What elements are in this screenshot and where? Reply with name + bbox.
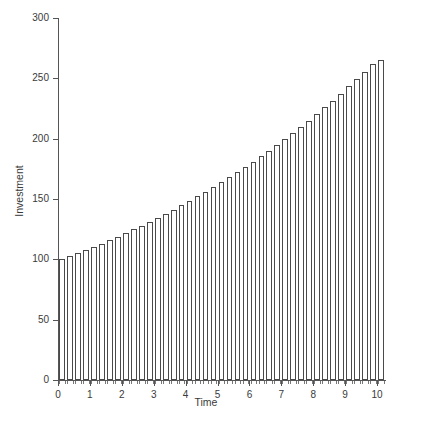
x-axis-minor-tick — [97, 381, 98, 384]
x-axis-minor-tick — [224, 381, 225, 384]
bar — [67, 256, 73, 380]
x-axis-minor-tick — [280, 381, 281, 384]
x-axis-minor-tick — [384, 381, 385, 384]
bar — [306, 121, 312, 380]
x-axis-minor-tick — [139, 381, 140, 384]
x-axis-minor-tick — [200, 381, 201, 384]
bar — [155, 218, 161, 380]
x-axis-minor-tick — [360, 381, 361, 384]
x-axis-minor-tick — [105, 381, 106, 384]
x-axis-minor-tick — [219, 381, 220, 384]
y-axis-title: Investment — [11, 0, 27, 425]
bar — [115, 237, 121, 380]
bar — [59, 259, 65, 380]
x-axis-minor-tick — [161, 381, 162, 384]
x-axis-minor-tick — [129, 381, 130, 384]
bar — [227, 177, 233, 380]
bar — [171, 210, 177, 381]
x-axis-minor-tick — [208, 381, 209, 384]
bar — [370, 64, 376, 380]
y-axis-tick-label: 300 — [32, 11, 49, 24]
x-axis-minor-tick — [290, 381, 291, 384]
x-axis-minor-tick — [123, 381, 124, 384]
x-axis-minor-tick — [113, 381, 114, 384]
x-axis-minor-tick — [91, 381, 92, 384]
x-axis-minor-tick — [227, 381, 228, 384]
bar — [99, 244, 105, 380]
y-axis-tick-mark — [53, 199, 58, 200]
x-axis-minor-tick — [169, 381, 170, 384]
x-axis-minor-tick — [298, 381, 299, 384]
x-axis-minor-tick — [256, 381, 257, 384]
x-axis-minor-tick — [211, 381, 212, 384]
x-axis-minor-tick — [89, 381, 90, 384]
x-axis-minor-tick — [362, 381, 363, 384]
y-axis-tick-mark — [53, 320, 58, 321]
x-axis-minor-tick — [107, 381, 108, 384]
x-axis-minor-tick — [376, 381, 377, 384]
x-axis-minor-tick — [352, 381, 353, 384]
x-axis-minor-tick — [81, 381, 82, 384]
bar — [235, 172, 241, 380]
x-axis-minor-tick — [131, 381, 132, 384]
bar — [338, 94, 344, 380]
x-axis-minor-tick — [192, 381, 193, 384]
x-axis-minor-tick — [312, 381, 313, 384]
x-axis-minor-tick — [259, 381, 260, 384]
bar — [211, 187, 217, 380]
x-axis-minor-tick — [184, 381, 185, 384]
plot-area: 050100150200250300 012345678910 — [58, 18, 385, 380]
bar — [266, 151, 272, 380]
x-axis-minor-tick — [145, 381, 146, 384]
x-axis-minor-tick — [59, 381, 60, 384]
x-axis-minor-tick — [370, 381, 371, 384]
bar — [75, 253, 81, 380]
y-axis-tick-label: 0 — [43, 373, 49, 386]
chart-figure: Investment 050100150200250300 0123456789… — [0, 0, 426, 425]
bar — [91, 247, 97, 380]
x-axis-minor-tick — [73, 381, 74, 384]
x-axis-minor-tick — [304, 381, 305, 384]
x-axis-minor-tick — [314, 381, 315, 384]
x-axis-minor-tick — [368, 381, 369, 384]
x-axis-minor-tick — [354, 381, 355, 384]
y-axis-title-label: Investment — [13, 165, 25, 216]
x-axis-minor-tick — [235, 381, 236, 384]
x-axis-minor-tick — [296, 381, 297, 384]
x-axis-minor-tick — [330, 381, 331, 384]
x-axis-minor-tick — [115, 381, 116, 384]
bar — [83, 250, 89, 380]
x-axis-minor-tick — [155, 381, 156, 384]
x-axis-minor-tick — [232, 381, 233, 384]
bar — [139, 226, 145, 380]
x-axis-minor-tick — [338, 381, 339, 384]
bar — [147, 222, 153, 380]
x-axis-minor-tick — [153, 381, 154, 384]
bar — [346, 86, 352, 380]
x-axis-minor-tick — [137, 381, 138, 384]
x-axis-minor-tick — [240, 381, 241, 384]
x-axis-minor-tick — [171, 381, 172, 384]
x-axis-minor-tick — [346, 381, 347, 384]
bar — [314, 114, 320, 380]
x-axis-minor-tick — [328, 381, 329, 384]
y-axis-tick-label: 150 — [32, 192, 49, 205]
x-axis-minor-tick — [163, 381, 164, 384]
x-axis-title-label: Time — [195, 396, 218, 408]
x-axis-minor-tick — [336, 381, 337, 384]
bar — [290, 133, 296, 380]
bar — [179, 205, 185, 380]
x-axis-minor-tick — [67, 381, 68, 384]
x-axis-minor-tick — [187, 381, 188, 384]
y-axis-tick-mark — [53, 259, 58, 260]
y-axis-tick-label: 250 — [32, 71, 49, 84]
bar — [131, 229, 137, 380]
bar — [274, 145, 280, 380]
bar — [282, 139, 288, 380]
x-axis-minor-tick — [99, 381, 100, 384]
x-axis-minor-tick — [322, 381, 323, 384]
bar — [203, 192, 209, 380]
bar — [298, 127, 304, 380]
x-axis-minor-tick — [147, 381, 148, 384]
x-axis-minor-tick — [177, 381, 178, 384]
